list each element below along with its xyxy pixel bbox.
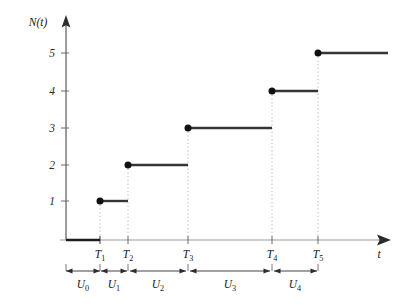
interarrival-arrow-U0 (66, 268, 100, 273)
jump-time-label-T4-sub: 4 (273, 254, 277, 263)
jump-time-label-T1-sub: 1 (101, 254, 105, 263)
interarrival-label-U1: U1 (108, 278, 120, 293)
jump-time-label-T3-sub: 3 (189, 254, 193, 263)
x-axis-label-t: t (377, 248, 381, 260)
y-tick-label-2: 2 (49, 159, 55, 171)
interarrival-arrow-U1 (101, 268, 127, 273)
interarrival-arrow-U2 (130, 268, 186, 273)
jump-time-label-T3: T3 (183, 248, 194, 263)
jump-time-label-T2-sub: 2 (129, 254, 133, 263)
jump-time-label-T4: T4 (267, 248, 278, 263)
y-axis-label-n: N(t) (28, 16, 48, 29)
interarrival-arrow-U4 (274, 268, 317, 273)
jump-time-label-T5: T5 (313, 248, 324, 263)
x-axis-label: t (377, 248, 381, 260)
interarrival-label-U0: U0 (77, 278, 89, 293)
step-function-path-group (66, 53, 388, 240)
jump-time-label-T1: T1 (95, 248, 106, 263)
interarrival-label-U1-sub: 1 (116, 284, 120, 293)
axes-group (60, 15, 391, 245)
interarrival-arrows-group (66, 268, 317, 273)
interarrival-label-U2: U2 (152, 278, 164, 293)
jump-dot-level-4 (269, 88, 276, 95)
y-tick-marks-group (61, 53, 69, 201)
interarrival-labels-group: U0 U1 U2 U3 U4 (77, 278, 301, 293)
y-tick-label-4: 4 (49, 85, 55, 97)
interarrival-label-U4: U4 (289, 278, 301, 293)
jump-dot-level-5 (315, 50, 322, 57)
jump-dot-level-1 (97, 198, 104, 205)
interarrival-label-U0-sub: 0 (85, 284, 89, 293)
interarrival-label-U2-sub: 2 (160, 284, 164, 293)
jump-dot-level-2 (125, 162, 132, 169)
y-tick-label-3: 3 (48, 122, 55, 134)
jump-time-label-T5-sub: 5 (319, 254, 323, 263)
jump-time-label-T2: T2 (123, 248, 134, 263)
counting-process-plot: 1 2 3 4 5 N(t) t T1 T2 T3 (0, 0, 403, 305)
y-tick-label-1: 1 (49, 195, 55, 207)
guide-lines-group (100, 53, 318, 240)
jump-time-labels-group: T1 T2 T3 T4 T5 (95, 248, 324, 263)
y-tick-labels-group: 1 2 3 4 5 (48, 47, 55, 207)
step-function-figure: 1 2 3 4 5 N(t) t T1 T2 T3 (0, 0, 403, 305)
interarrival-label-U3-sub: 3 (232, 284, 236, 293)
y-tick-label-5: 5 (49, 47, 55, 59)
jump-dot-level-3 (185, 125, 192, 132)
interarrival-label-U3: U3 (224, 278, 236, 293)
interarrival-label-U4-sub: 4 (297, 284, 301, 293)
interarrival-arrow-U3 (190, 268, 270, 273)
y-axis-label: N(t) (28, 16, 48, 29)
